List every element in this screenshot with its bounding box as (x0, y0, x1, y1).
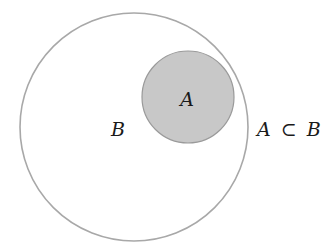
set-a-label: A (178, 88, 194, 110)
relation-label: A ⊂ B (255, 118, 321, 140)
relation-right: B (306, 118, 321, 140)
set-b-label: B (110, 118, 125, 140)
subset-symbol: ⊂ (281, 118, 297, 140)
venn-diagram: A B A ⊂ B (0, 0, 333, 249)
relation-left: A (255, 118, 271, 140)
